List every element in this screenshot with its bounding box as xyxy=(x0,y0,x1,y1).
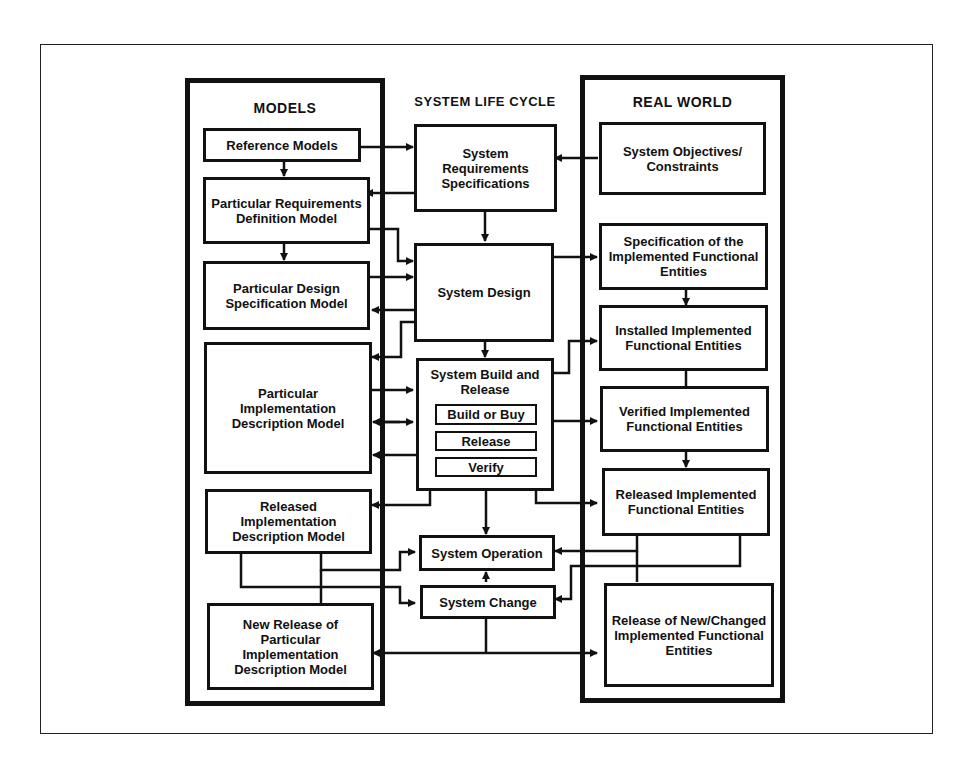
requirements-definition-model-box[interactable]: Particular Requirements Definition Model xyxy=(203,177,370,244)
implementation-description-model-box[interactable]: Particular Implementation Description Mo… xyxy=(204,342,372,474)
requirements-specifications-box[interactable]: System Requirements Specifications xyxy=(414,124,557,212)
verify-step[interactable]: Verify xyxy=(435,457,537,477)
build-or-buy-step[interactable]: Build or Buy xyxy=(435,404,537,425)
new-changed-implemented-box[interactable]: Release of New/Changed Implemented Funct… xyxy=(604,583,774,687)
system-change-box[interactable]: System Change xyxy=(420,585,556,619)
installed-implemented-box[interactable]: Installed Implemented Functional Entitie… xyxy=(599,305,768,371)
specification-implemented-box[interactable]: Specification of the Implemented Functio… xyxy=(599,223,768,290)
release-step[interactable]: Release xyxy=(435,431,537,451)
design-specification-model-box[interactable]: Particular Design Specification Model xyxy=(203,261,370,330)
verified-implemented-box[interactable]: Verified Implemented Functional Entities xyxy=(600,386,769,452)
reference-models-box[interactable]: Reference Models xyxy=(203,128,361,162)
build-release-label: System Build and Release xyxy=(430,367,540,397)
new-release-model-box[interactable]: New Release of Particular Implementation… xyxy=(207,603,374,690)
system-design-box[interactable]: System Design xyxy=(414,243,554,342)
released-implemented-box[interactable]: Released Implemented Functional Entities xyxy=(602,468,770,536)
system-operation-box[interactable]: System Operation xyxy=(419,535,555,571)
objectives-constraints-box[interactable]: System Objectives/ Constraints xyxy=(599,122,766,195)
released-implementation-model-box[interactable]: Released Implementation Description Mode… xyxy=(205,489,372,554)
